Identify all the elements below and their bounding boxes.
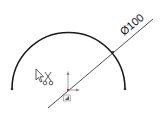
dimension-arrow-dot [112,51,114,53]
semicircle-arc[interactable] [12,32,125,89]
arc-endpoint-left[interactable] [11,88,14,91]
select-arrow-cursor-icon [36,69,44,82]
coincident-relation-icon[interactable] [64,95,71,101]
origin-icon [67,71,81,92]
sketch-canvas[interactable]: Ø100 [0,0,161,116]
diameter-dimension-text[interactable]: Ø100 [118,11,146,37]
scissors-trim-icon [43,72,53,85]
arc-endpoint-right[interactable] [124,88,127,91]
